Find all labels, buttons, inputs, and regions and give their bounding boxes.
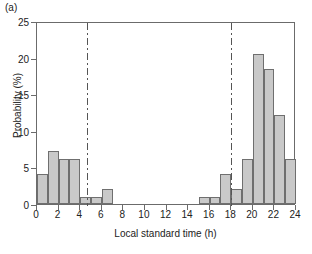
- histogram-bar: [253, 54, 264, 204]
- x-axis-tick-label: 2: [55, 209, 61, 220]
- histogram-bar: [264, 69, 275, 204]
- x-axis-tick-label: 8: [120, 209, 126, 220]
- histogram-bar: [199, 197, 210, 204]
- histogram-bar: [220, 174, 231, 204]
- histogram-bar: [59, 159, 70, 204]
- sunset-line: [231, 23, 232, 206]
- plot-area: [36, 22, 295, 205]
- x-axis-tick-label: 22: [268, 209, 279, 220]
- y-axis-tick-label: 0: [3, 200, 29, 211]
- histogram-bar: [102, 189, 113, 204]
- x-axis-tick-label: 14: [182, 209, 193, 220]
- sunrise-line: [87, 23, 88, 206]
- x-axis-tick-label: 18: [225, 209, 236, 220]
- y-axis-tick-label: 25: [3, 17, 29, 28]
- x-axis-tick-label: 0: [33, 209, 39, 220]
- y-axis-title: Probability (%): [12, 41, 23, 171]
- x-axis-tick-label: 24: [289, 209, 300, 220]
- histogram-bar: [80, 197, 91, 204]
- histogram-bar: [210, 197, 221, 204]
- histogram-chart: (a) 0510152025 Probability (%) Local sta…: [0, 0, 312, 254]
- histogram-bar: [242, 159, 253, 204]
- histogram-bar: [91, 197, 102, 204]
- y-axis-tick: [31, 22, 36, 23]
- bars-layer: [37, 23, 294, 204]
- x-axis-tick-label: 10: [138, 209, 149, 220]
- x-axis-tick-label: 16: [203, 209, 214, 220]
- x-axis-title: Local standard time (h): [36, 228, 295, 239]
- x-axis-tick-label: 20: [246, 209, 257, 220]
- y-axis-tick: [31, 168, 36, 169]
- histogram-bar: [37, 174, 48, 204]
- histogram-bar: [285, 159, 296, 204]
- x-axis-tick-label: 6: [98, 209, 104, 220]
- histogram-bar: [274, 115, 285, 204]
- x-axis-tick-label: 12: [160, 209, 171, 220]
- histogram-bar: [48, 151, 59, 204]
- y-axis-tick: [31, 59, 36, 60]
- histogram-bar: [231, 189, 242, 204]
- y-axis-tick: [31, 95, 36, 96]
- x-axis-tick-label: 4: [76, 209, 82, 220]
- y-axis-tick: [31, 132, 36, 133]
- histogram-bar: [69, 159, 80, 204]
